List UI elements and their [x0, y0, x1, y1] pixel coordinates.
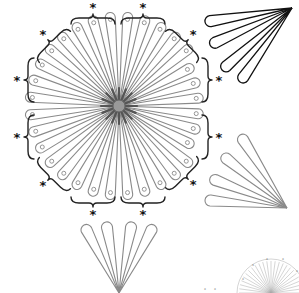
flower-center: [101, 88, 137, 124]
thumb-asterisk: *: [266, 257, 268, 262]
petal-tip-circle: [184, 49, 188, 53]
asterisk-marker: *: [14, 130, 21, 145]
petal-tip-circle: [92, 21, 96, 25]
petal-tip-circle: [40, 145, 44, 149]
petal-tip-circle: [194, 96, 198, 100]
small-asterisk: *: [214, 287, 216, 292]
petal-tip-circle: [172, 171, 176, 175]
bracket-group-left-upper: *: [14, 58, 34, 102]
asterisk-marker: *: [39, 27, 46, 42]
curly-bracket: [121, 14, 165, 24]
curly-bracket: [202, 58, 212, 102]
small-asterisk: *: [204, 287, 206, 292]
petal-tip-circle: [126, 191, 130, 195]
petal-tip-circle: [76, 181, 80, 185]
thumb-asterisk: *: [282, 257, 284, 262]
thumb-petal: [263, 262, 271, 293]
bracket-group-right-upper: *: [202, 58, 223, 102]
petal-tip-circle: [108, 191, 112, 195]
fan-right: [205, 134, 287, 208]
petal-tip-circle: [194, 112, 198, 116]
fan-petal: [221, 153, 287, 208]
petal-tip-circle: [76, 27, 80, 31]
asterisk-marker: *: [216, 130, 223, 145]
asterisk-marker: *: [216, 73, 223, 88]
petal-tip-circle: [30, 95, 34, 99]
petal-tip-circle: [184, 159, 188, 163]
asterisk-marker: *: [140, 207, 147, 222]
petal-tip-circle: [191, 81, 195, 85]
petal-tip-circle: [185, 141, 189, 145]
petal-tip-circle: [172, 37, 176, 41]
asterisk-marker: *: [190, 177, 197, 192]
asterisk-marker: *: [190, 27, 197, 42]
petal-tip-circle: [40, 63, 44, 67]
petal-tip-circle: [34, 129, 38, 133]
petal-tip-circle: [34, 79, 38, 83]
petal-tip-circle: [62, 171, 66, 175]
thumb-asterisk: *: [296, 269, 298, 274]
curly-bracket: [202, 115, 212, 159]
petal-tip-circle: [50, 49, 54, 53]
petal-tip-circle: [142, 21, 146, 25]
asterisk-marker: *: [39, 178, 46, 193]
thumb-petal: [240, 285, 271, 293]
fan-petal: [210, 174, 287, 208]
center-disc: [113, 100, 125, 112]
petal-tip-circle: [185, 67, 189, 71]
bracket-group-right-lower: *: [202, 115, 223, 159]
fan-petal: [237, 134, 287, 208]
detached-petal-fans: [81, 8, 292, 293]
asterisk-marker: *: [14, 73, 21, 88]
thumb-asterisk: *: [242, 277, 244, 282]
petal-tip-circle: [158, 27, 162, 31]
petal-tip-circle: [191, 127, 195, 131]
bracket-group-bottom-left: *: [71, 197, 115, 222]
thumbnail-flower: *******: [204, 257, 299, 293]
bracket-group-left-lower: *: [14, 115, 34, 159]
curly-bracket: [166, 24, 204, 62]
bracket-group-upper-right: *: [166, 14, 215, 63]
petal-tip-circle: [92, 187, 96, 191]
thumb-asterisk: *: [252, 263, 254, 268]
curly-bracket: [71, 197, 115, 207]
petal-tip-circle: [158, 181, 162, 185]
diagram-canvas: ************ *******: [0, 0, 299, 293]
bracket-group-bottom-right: *: [121, 197, 165, 222]
petal-tip-circle: [50, 159, 54, 163]
asterisk-marker: *: [90, 0, 97, 15]
thumb-petal: [271, 262, 279, 293]
asterisk-marker: *: [90, 207, 97, 222]
curly-bracket: [121, 197, 165, 207]
petal-tip-circle: [62, 37, 66, 41]
fan-bottom: [81, 222, 157, 293]
asterisk-marker: *: [140, 0, 147, 15]
petal-tip-circle: [142, 187, 146, 191]
flower-diagram: ************ *******: [0, 0, 299, 293]
